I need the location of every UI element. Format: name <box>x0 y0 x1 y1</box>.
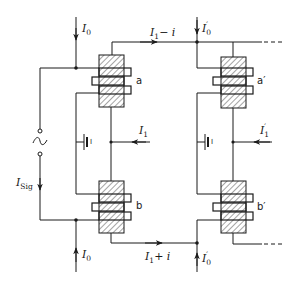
label-i1-right: I1′ <box>259 122 269 139</box>
battery-label: I <box>90 138 92 146</box>
core-label-a: a <box>136 75 142 86</box>
label-i0p-bottom: I0′ <box>201 250 211 267</box>
left-stage: I0 ISig I0 I a <box>15 17 197 272</box>
right-stage: I0′ a′ I I1′ <box>195 17 285 272</box>
core-a-prime <box>213 57 253 108</box>
source-terminal-top <box>38 129 42 133</box>
label-i0p-top: I0′ <box>201 20 211 37</box>
core-label-a-prime: a′ <box>257 75 266 86</box>
core-label-b: b <box>136 200 142 211</box>
core-b-prime <box>213 181 253 233</box>
label-i0-bottom: I0 <box>81 248 91 263</box>
label-i1-left: I1 <box>138 124 148 139</box>
battery-icon <box>197 134 208 150</box>
wire <box>197 220 221 243</box>
core-b <box>92 181 131 233</box>
label-i0-top: I0 <box>81 22 91 37</box>
source-terminal-bottom <box>38 152 42 156</box>
wire <box>197 42 221 68</box>
label-isig: ISig <box>15 176 33 191</box>
wire <box>233 233 262 244</box>
core-a <box>92 55 131 107</box>
battery-label: I <box>211 138 213 146</box>
wire <box>112 42 197 55</box>
core-label-b-prime: b′ <box>257 201 266 212</box>
label-i1-minus-i: I1− i <box>149 26 175 41</box>
label-i1-plus-i: I1+ i <box>144 250 170 265</box>
battery-icon <box>76 134 87 150</box>
core-circuit-diagram: I0 ISig I0 I a <box>0 0 297 283</box>
wire <box>111 233 197 243</box>
ac-source-icon <box>33 137 47 144</box>
